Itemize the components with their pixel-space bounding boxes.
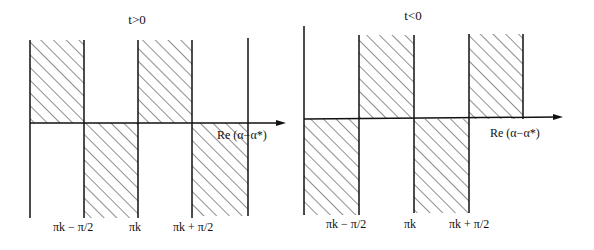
hatched-region-lower-1 [304,119,359,215]
hatched-region-lower-1 [84,123,138,218]
hatched-region-lower-2 [414,119,469,213]
tick-label-pik-plus-pi2: πk + π/2 [173,220,213,234]
axis-arrow-icon [553,114,563,120]
panel-t-positive: t>0 Re (α−α*) πk − π/2 πk πk + π/2 [30,12,286,234]
tick-label-pik-minus-pi2: πk − π/2 [326,217,366,231]
panel-t-negative: t<0 Re (α−α*) πk − π/2 πk πk + π/2 [304,8,563,231]
hatched-region-upper-2 [138,40,192,123]
hatched-region-upper-1 [359,35,414,119]
panel-title: t>0 [128,12,145,27]
hatched-region-upper-2 [469,34,523,119]
tick-label-pik: πk [129,220,141,234]
tick-label-pik-minus-pi2: πk − π/2 [53,220,93,234]
tick-label-pik-plus-pi2: πk + π/2 [449,217,489,231]
panel-title: t<0 [404,8,421,23]
tick-label-pik: πk [404,217,416,231]
axis-arrow-icon [276,120,286,126]
axis-label: Re (α−α*) [217,128,267,142]
axis-label: Re (α−α*) [490,126,540,140]
hatched-region-upper-1 [30,40,84,123]
diagram-canvas: t>0 Re (α−α*) πk − π/2 πk πk + π/2 t<0 R… [0,0,594,250]
